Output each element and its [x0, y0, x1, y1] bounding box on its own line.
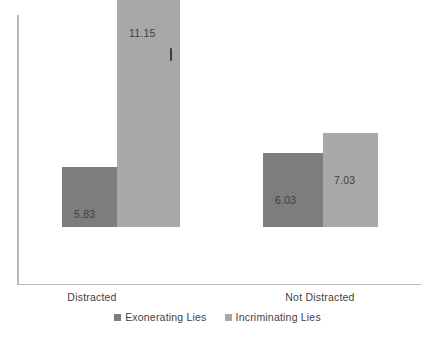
- bar-chart: 5.83 11.15 6.03 7.03 Distracted Not Dist…: [0, 0, 435, 342]
- legend-item-exonerating-lies: Exonerating Lies: [114, 311, 206, 323]
- legend-swatch-icon-incriminating-lies: [225, 314, 232, 321]
- bar-not-distracted-exonerating-lies: [263, 153, 323, 227]
- legend-label-exonerating-lies: Exonerating Lies: [125, 311, 206, 323]
- y-axis-line: [17, 15, 19, 285]
- x-axis-label-distracted: Distracted: [67, 291, 116, 303]
- x-axis-label-not-distracted: Not Distracted: [285, 291, 354, 303]
- value-label-not-distracted-incriminating-lies: 7.03: [334, 174, 355, 186]
- legend-item-incriminating-lies: Incriminating Lies: [225, 311, 321, 323]
- legend-swatch-icon-exonerating-lies: [114, 314, 121, 321]
- chart-legend: Exonerating Lies Incriminating Lies: [0, 311, 435, 323]
- value-label-not-distracted-exonerating-lies: 6.03: [275, 194, 296, 206]
- value-label-distracted-exonerating-lies: 5.83: [74, 208, 95, 220]
- scan-artifact-mark: [170, 48, 172, 61]
- plot-area: [0, 0, 435, 285]
- value-label-distracted-incriminating-lies: 11.15: [129, 27, 156, 39]
- legend-label-incriminating-lies: Incriminating Lies: [236, 311, 321, 323]
- x-axis-line: [17, 284, 421, 285]
